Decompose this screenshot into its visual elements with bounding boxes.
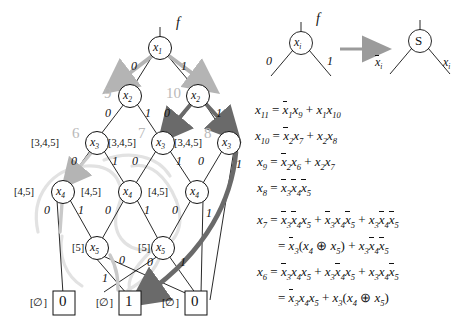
node-label-x4-a: x4 (56, 185, 65, 200)
node-label-x5-a: x5 (90, 241, 99, 256)
edge-label-x2a-high: 1 (145, 107, 151, 119)
function-label-f: f (176, 16, 180, 30)
edge-label-x4c-high: 1 (206, 207, 212, 219)
edge-label-x3b-low: 0 (132, 155, 138, 167)
highlight-edge-x2b-low (170, 104, 191, 129)
equation-x7: x7 = x3x4x5 + x3x4x5 + x3x4x5 (257, 212, 399, 230)
node-label-x1: x1 (153, 41, 162, 56)
terminal-value-0a: 0 (59, 294, 67, 309)
node-label-x4-b: x4 (123, 185, 132, 200)
set-label-x4-a: [4,5] (14, 187, 34, 198)
set-label-terminal-1: [∅] (96, 298, 113, 309)
node-label-x3-c: x3 (222, 136, 231, 151)
edge-label-x2b-low: 0 (164, 107, 170, 119)
edge-label-x3a-high: 1 (112, 155, 118, 167)
set-label-x5-a: [5] (72, 243, 84, 254)
legend-low-label: 0 (266, 55, 272, 67)
node-index-8: 8 (204, 126, 212, 141)
edge-label-x3c-high: 1 (236, 158, 242, 170)
legend-right-literal: xi (443, 56, 450, 71)
edge-label-x2a-low: 0 (105, 107, 111, 119)
terminal-value-0b: 0 (191, 294, 199, 309)
node-label-x4-c: x4 (190, 185, 199, 200)
equation-x7-simplified: = x3(x4 ⊕ x5) + x3x4x5 (278, 238, 389, 256)
legend-source-node-label: xi (294, 36, 301, 51)
node-index-6: 6 (72, 126, 80, 141)
set-label-x4-b: [4,5] (81, 187, 101, 198)
edge-label-x3b-high: 1 (176, 155, 182, 167)
edge-label-x5a-low: 0 (119, 254, 125, 266)
edge-label-x4a-high: 1 (78, 204, 84, 216)
edge-label-x5a-high: 1 (102, 272, 108, 284)
edge-label-x1-low: 0 (131, 60, 137, 72)
edge-label-x5b-low: 0 (147, 256, 153, 268)
edge-label-x1-high: 1 (181, 60, 187, 72)
node-index-9: 9 (104, 86, 112, 101)
edge-label-x4b-low: 0 (105, 204, 111, 216)
legend-left-literal: xi (375, 56, 382, 71)
legend-function-label-f: f (316, 12, 320, 26)
node-label-x5-b: x5 (156, 241, 165, 256)
node-label-x2-b: x2 (191, 89, 200, 104)
equation-x8: x8 = x3x4x5 (257, 180, 311, 198)
node-index-7: 7 (138, 126, 146, 141)
legend-switch-glyph-S: S (415, 34, 422, 47)
edge-label-x4b-high: 1 (144, 204, 150, 216)
node-label-x3-a: x3 (90, 136, 99, 151)
edge-label-x3a-low: 0 (71, 155, 77, 167)
equation-x11: x11 = x1x9 + x1x10 (255, 102, 341, 120)
figure-root: f x1 x2 x2 x3 x3 x3 x4 x4 x4 x5 x5 9 10 … (0, 0, 472, 335)
set-label-x4-c: [4,5] (148, 187, 168, 198)
edge-label-x4a-low: 0 (44, 204, 50, 216)
equation-x6-simplified: = x3x4x5 + x3(x4 ⊕ x5) (278, 290, 389, 308)
set-label-terminal-0a: [∅] (30, 298, 47, 309)
background-ghost-strokes (36, 155, 179, 290)
set-label-x3-a: [3,4,5] (31, 138, 59, 149)
node-label-x3-b: x3 (156, 136, 165, 151)
edge-label-x2b-high: 1 (216, 107, 222, 119)
node-label-x2-a: x2 (123, 89, 132, 104)
edge-label-x5b-high: 1 (180, 256, 186, 268)
legend-high-label: 1 (327, 55, 333, 67)
set-label-x5-b: [5] (138, 243, 150, 254)
equation-x9: x9 = x2x6 + x2x7 (257, 154, 335, 172)
edge-label-x4c-low: 0 (172, 204, 178, 216)
edge-label-x3c-low: 0 (198, 155, 204, 167)
terminal-value-1: 1 (125, 294, 133, 309)
set-label-x3-c: [3,4,5] (174, 138, 202, 149)
set-label-x3-b: [3,4,5] (108, 138, 136, 149)
set-label-terminal-0b: [∅] (162, 298, 179, 309)
equation-x6: x6 = x3x4x5 + x3x4x5 + x3x4x5 (257, 264, 399, 282)
node-index-10: 10 (166, 86, 181, 101)
equation-x10: x10 = x2x7 + x2x8 (255, 128, 337, 146)
